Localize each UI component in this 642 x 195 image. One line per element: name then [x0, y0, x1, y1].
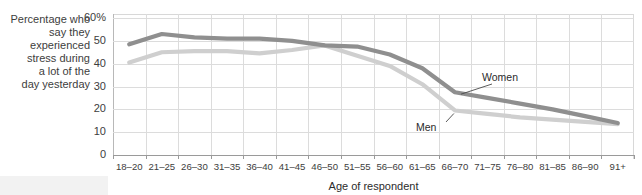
leader-line-men: [446, 113, 454, 122]
series-line-women: [129, 34, 617, 123]
series-layer: [0, 0, 642, 195]
series-line-men: [129, 45, 617, 124]
series-label-men: Men: [416, 121, 436, 133]
x-axis-title: Age of respondent: [113, 180, 634, 192]
stress-by-age-line-chart: Percentage who say they experienced stre…: [0, 0, 642, 195]
leader-line-women: [461, 84, 492, 94]
series-label-women: Women: [482, 71, 518, 83]
